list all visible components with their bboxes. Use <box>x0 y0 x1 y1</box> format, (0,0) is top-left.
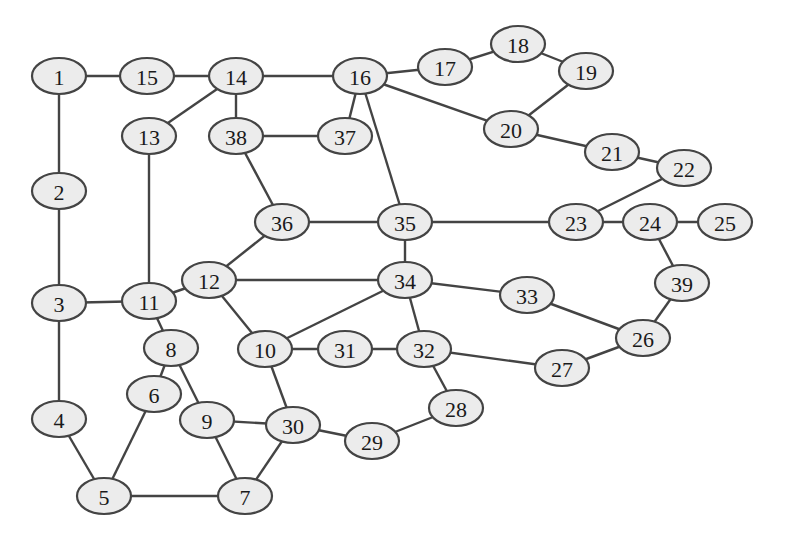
node-label: 37 <box>334 125 356 150</box>
node-11: 11 <box>122 283 176 319</box>
node-34: 34 <box>378 262 432 298</box>
node-label: 17 <box>434 56 456 81</box>
node-35: 35 <box>378 204 432 240</box>
node-7: 7 <box>218 478 272 514</box>
node-10: 10 <box>238 331 292 367</box>
node-label: 14 <box>225 65 247 90</box>
node-label: 27 <box>551 357 573 382</box>
node-label: 1 <box>54 65 65 90</box>
node-label: 22 <box>673 157 695 182</box>
node-label: 23 <box>565 211 587 236</box>
node-36: 36 <box>255 204 309 240</box>
node-label: 32 <box>413 338 435 363</box>
node-label: 31 <box>334 338 356 363</box>
node-label: 36 <box>271 211 293 236</box>
node-26: 26 <box>616 320 670 356</box>
node-label: 38 <box>225 125 247 150</box>
node-label: 12 <box>198 269 220 294</box>
node-17: 17 <box>418 49 472 85</box>
node-6: 6 <box>127 376 181 412</box>
node-9: 9 <box>180 402 234 438</box>
node-label: 7 <box>240 485 251 510</box>
node-label: 18 <box>507 33 529 58</box>
node-label: 30 <box>282 414 304 439</box>
node-28: 28 <box>429 390 483 426</box>
node-label: 34 <box>394 269 416 294</box>
node-label: 6 <box>149 383 160 408</box>
node-label: 26 <box>632 327 654 352</box>
node-21: 21 <box>585 134 639 170</box>
node-30: 30 <box>266 407 320 443</box>
node-3: 3 <box>32 285 86 321</box>
node-label: 39 <box>671 272 693 297</box>
node-4: 4 <box>32 401 86 437</box>
node-25: 25 <box>698 204 752 240</box>
node-19: 19 <box>559 53 613 89</box>
node-12: 12 <box>182 262 236 298</box>
node-label: 29 <box>361 430 383 455</box>
node-39: 39 <box>655 265 709 301</box>
node-label: 4 <box>54 408 65 433</box>
edge-16-35 <box>360 76 405 222</box>
node-label: 5 <box>99 485 110 510</box>
node-16: 16 <box>333 58 387 94</box>
node-label: 10 <box>254 338 276 363</box>
node-37: 37 <box>318 118 372 154</box>
node-33: 33 <box>500 277 554 313</box>
node-20: 20 <box>484 111 538 147</box>
node-29: 29 <box>345 423 399 459</box>
node-label: 11 <box>138 290 159 315</box>
node-label: 15 <box>136 65 158 90</box>
node-2: 2 <box>32 173 86 209</box>
node-label: 20 <box>500 118 522 143</box>
node-label: 21 <box>601 141 623 166</box>
node-24: 24 <box>623 204 677 240</box>
node-label: 2 <box>54 180 65 205</box>
node-8: 8 <box>144 330 198 366</box>
graph-diagram: 1234567891011121314151617181920212223242… <box>0 0 785 545</box>
node-31: 31 <box>318 331 372 367</box>
node-15: 15 <box>120 58 174 94</box>
node-14: 14 <box>209 58 263 94</box>
node-27: 27 <box>535 350 589 386</box>
node-13: 13 <box>122 118 176 154</box>
node-18: 18 <box>491 26 545 62</box>
node-label: 35 <box>394 211 416 236</box>
node-label: 13 <box>138 125 160 150</box>
node-32: 32 <box>397 331 451 367</box>
node-label: 9 <box>202 409 213 434</box>
node-label: 25 <box>714 211 736 236</box>
node-label: 19 <box>575 60 597 85</box>
node-1: 1 <box>32 58 86 94</box>
node-label: 16 <box>349 65 371 90</box>
node-38: 38 <box>209 118 263 154</box>
node-label: 33 <box>516 284 538 309</box>
node-label: 8 <box>166 337 177 362</box>
node-label: 3 <box>54 292 65 317</box>
node-layer: 1234567891011121314151617181920212223242… <box>32 26 752 514</box>
node-label: 24 <box>639 211 661 236</box>
node-5: 5 <box>77 478 131 514</box>
node-label: 28 <box>445 397 467 422</box>
node-23: 23 <box>549 204 603 240</box>
node-22: 22 <box>657 150 711 186</box>
